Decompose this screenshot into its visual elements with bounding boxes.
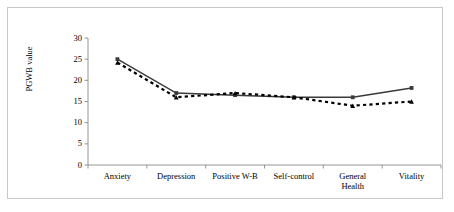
data-point-marker — [410, 86, 414, 90]
y-tick-label: 15 — [60, 97, 82, 105]
y-tick-label: 20 — [60, 76, 82, 84]
series-layer — [115, 57, 414, 108]
y-tick-label: 30 — [60, 34, 82, 42]
y-tick-label: 25 — [60, 55, 82, 63]
x-tick-label: Positive W-B — [206, 171, 265, 181]
x-tick-label: Self-control — [265, 171, 324, 181]
x-tick-label: Anxiety — [88, 171, 147, 181]
y-axis-title: PGWB value — [24, 14, 34, 124]
x-tick-label: Depression — [147, 171, 206, 181]
x-tick-label: Vitality — [382, 171, 441, 181]
x-tick-label-line: Vitality — [382, 171, 441, 181]
x-tick-label-line: Health — [323, 181, 382, 191]
y-tick-label: 10 — [60, 118, 82, 126]
x-tick-label-line: Depression — [147, 171, 206, 181]
axes — [85, 38, 442, 169]
y-tick-label: 0 — [60, 161, 82, 169]
series-line-series-solid — [117, 59, 411, 97]
data-point-marker — [174, 91, 178, 95]
y-tick-label: 5 — [60, 139, 82, 147]
x-tick-label-line: Anxiety — [88, 171, 147, 181]
x-tick-label-line: Positive W-B — [206, 171, 265, 181]
x-tick-label: GeneralHealth — [323, 171, 382, 191]
x-tick-label-line: General — [323, 171, 382, 181]
x-tick-label-line: Self-control — [265, 171, 324, 181]
data-point-marker — [351, 95, 355, 99]
